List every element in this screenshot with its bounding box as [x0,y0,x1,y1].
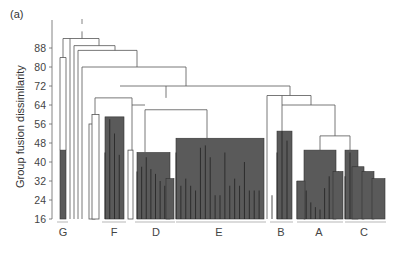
hollow-bar [128,150,133,219]
y-tick-label: 16 [34,213,46,225]
group-label-D: D [152,226,160,238]
cluster-G [60,150,66,219]
y-tick-label: 88 [34,42,46,54]
y-tick-label: 56 [34,118,46,130]
y-tick-label: 64 [34,99,46,111]
group-label-B: B [277,226,284,238]
cluster-A [304,150,336,219]
y-tick-label: 80 [34,61,46,73]
y-tick-label: 72 [34,80,46,92]
y-tick-label: 24 [34,194,46,206]
cluster-A-right [333,172,343,220]
group-label-G: G [59,226,68,238]
cluster-B [277,131,292,219]
y-tick-label: 40 [34,156,46,168]
group-label-F: F [111,226,118,238]
group-label-E: E [215,226,222,238]
y-tick-label: 48 [34,137,46,149]
dendrogram-plot: 16243240485664728088GFDEBAC [0,0,410,253]
cluster-D-tail [166,179,174,219]
hollow-bar [92,115,99,220]
dendrogram-figure: (a) Group fusion dissimilarity 162432404… [0,0,410,253]
cluster-C-right [372,179,385,219]
group-label-A: A [315,226,323,238]
group-label-C: C [360,226,368,238]
y-tick-label: 32 [34,175,46,187]
cluster-A-left [297,181,305,219]
